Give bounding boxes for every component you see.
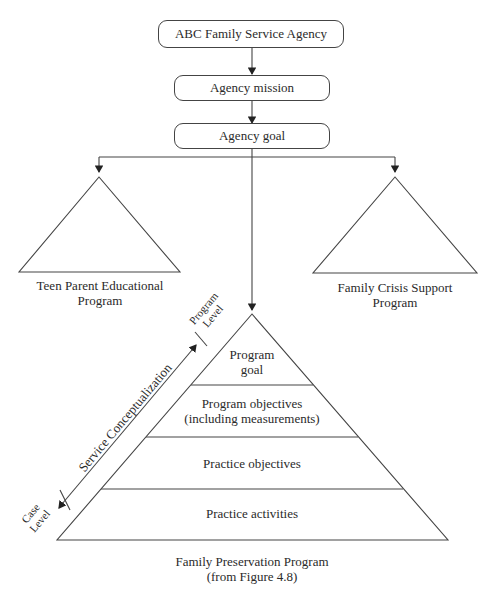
teen-program-caption: Teen Parent Educational Program: [19, 278, 181, 308]
mission-label: Agency mission: [210, 80, 294, 96]
level-practice-activities: Practice activities: [152, 506, 352, 521]
crisis-program-triangle: [313, 177, 477, 273]
agency-label: ABC Family Service Agency: [175, 26, 327, 42]
pyramid-caption: Family Preservation Program (from Figure…: [127, 554, 377, 584]
level-program-objectives: Program objectives (including measuremen…: [152, 396, 352, 426]
goal-label: Agency goal: [219, 128, 285, 144]
level-practice-objectives: Practice objectives: [152, 456, 352, 471]
level-program-goal: Program goal: [202, 347, 302, 377]
goal-box: Agency goal: [174, 123, 330, 149]
mission-box: Agency mission: [174, 75, 330, 101]
teen-program-triangle: [19, 177, 180, 272]
crisis-program-caption: Family Crisis Support Program: [313, 280, 477, 310]
agency-box: ABC Family Service Agency: [158, 20, 344, 48]
